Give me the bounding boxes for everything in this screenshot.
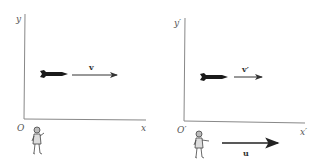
relativity-diagram: y O x v y′ O′ — [0, 0, 323, 166]
y-axis-label: y — [15, 14, 22, 24]
frame-velocity-label-u: u — [243, 148, 249, 158]
diagram-canvas: y O x v y′ O′ — [0, 0, 323, 166]
x-prime-axis — [184, 121, 305, 123]
frame-s-prime: y′ O′ x′ v′ u — [173, 18, 307, 158]
rocket-icon — [40, 70, 68, 78]
observer-icon — [32, 127, 44, 154]
y-axis — [24, 14, 25, 119]
frame-s: y O x v — [15, 14, 146, 154]
observer-icon — [194, 131, 209, 158]
x-prime-axis-label: x′ — [300, 127, 307, 137]
origin-label: O — [17, 123, 25, 133]
origin-prime-label: O′ — [177, 125, 186, 135]
y-prime-axis — [184, 18, 185, 121]
velocity-label-v-prime: v′ — [241, 64, 249, 74]
x-axis-label: x — [141, 123, 146, 133]
x-axis — [24, 119, 146, 120]
y-prime-axis-label: y′ — [173, 18, 181, 28]
rocket-icon — [200, 73, 228, 81]
velocity-label-v: v — [88, 62, 94, 72]
